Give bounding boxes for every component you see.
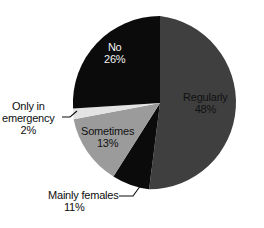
pie-label-mainly-females: Mainly females 11% [48, 190, 119, 214]
pie-label-sometimes-percent: 13% [81, 138, 134, 150]
pie-label-only-in-emergency-percent: 2% [2, 125, 55, 137]
pie-label-only-in-emergency-name-line-2: emergency [2, 113, 55, 125]
pie-chart: Regularly 48% No 26% Sometimes 13% Only … [0, 0, 264, 228]
pie-label-only-in-emergency: Only in emergency 2% [2, 101, 55, 137]
pie-label-mainly-females-percent: 11% [48, 202, 119, 214]
pie-label-no: No 26% [104, 42, 125, 66]
pie-label-regularly-percent: 48% [183, 104, 228, 116]
pie-label-regularly: Regularly 48% [183, 92, 228, 116]
pie-label-sometimes: Sometimes 13% [81, 126, 134, 150]
pie-label-no-percent: 26% [104, 54, 125, 66]
